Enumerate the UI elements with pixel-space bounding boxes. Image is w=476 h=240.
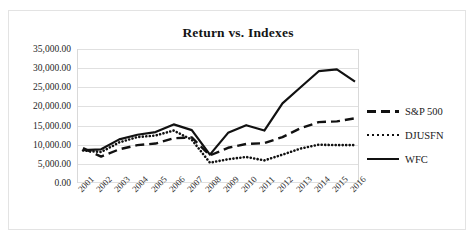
legend-item-djusfn[interactable]: DJUSFN (367, 123, 467, 147)
legend-swatch-icon (367, 153, 399, 165)
x-axis-labels: 2001200220032004200520062007200820092010… (77, 185, 359, 231)
legend-label: DJUSFN (405, 130, 444, 141)
legend-line-dashed (367, 110, 399, 113)
y-axis-labels: 0.005,000.0010,000.0015,000.0020,000.002… (9, 41, 75, 191)
legend-label: S&P 500 (405, 106, 443, 117)
y-axis-tick-label: 30,000.00 (33, 63, 71, 73)
legend-swatch-icon (367, 105, 399, 117)
legend-line-solid (367, 158, 399, 160)
legend-item-wfc[interactable]: WFC (367, 147, 467, 171)
y-axis-tick-label: 15,000.00 (33, 121, 71, 131)
series-line-djusfn (83, 131, 355, 163)
y-axis-tick-label: 0.00 (54, 178, 71, 188)
y-axis-tick-label: 20,000.00 (33, 101, 71, 111)
legend-line-dotted (367, 134, 399, 136)
y-axis-tick-label: 10,000.00 (33, 140, 71, 150)
legend-item-s-p-500[interactable]: S&P 500 (367, 99, 467, 123)
series-lines (78, 49, 360, 183)
y-axis-tick-label: 25,000.00 (33, 82, 71, 92)
legend-label: WFC (405, 154, 428, 165)
plot-area (77, 49, 359, 183)
chart-frame: Return vs. Indexes 0.005,000.0010,000.00… (8, 10, 466, 230)
series-line-wfc (83, 69, 355, 154)
chart-title: Return vs. Indexes (9, 25, 467, 41)
y-axis-tick-label: 5,000.00 (38, 159, 71, 169)
chart-legend: S&P 500DJUSFNWFC (367, 99, 467, 171)
legend-swatch-icon (367, 129, 399, 141)
y-axis-tick-label: 35,000.00 (33, 44, 71, 54)
